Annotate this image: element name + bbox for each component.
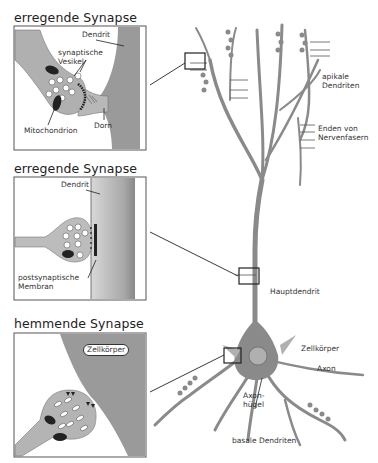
label-vesikel: synaptische Vesikel bbox=[58, 48, 103, 66]
label-mitochondrion: Mitochondrion bbox=[24, 126, 78, 135]
label-zellkoerper: Zellkörper bbox=[301, 344, 339, 353]
label-axon: Axon bbox=[317, 364, 336, 373]
label-dendrit-2: Dendrit bbox=[61, 180, 89, 189]
label-axonhuegel: Axon- hügel bbox=[243, 391, 264, 409]
panel-2-title: erregende Synapse bbox=[14, 161, 137, 176]
label-dendrit-1: Dendrit bbox=[82, 30, 110, 39]
panel-1-title: erregende Synapse bbox=[14, 10, 137, 25]
cell-body bbox=[222, 320, 296, 380]
label-postsynaptische-membran: postsynaptische Membran bbox=[18, 273, 79, 291]
neuron-diagram bbox=[0, 0, 378, 463]
label-zellkoerper-pill: Zellkörper bbox=[83, 344, 129, 356]
panel-3-title: hemmende Synapse bbox=[14, 316, 144, 331]
connector-lines bbox=[150, 63, 238, 392]
label-basale-dendriten: basale Dendriten bbox=[232, 436, 296, 445]
label-enden-von-nervenfasern: Enden von Nervenfasern bbox=[318, 124, 369, 142]
label-hauptdendrit: Hauptdendrit bbox=[270, 287, 320, 296]
label-apikale-dendriten: apikale Dendriten bbox=[322, 72, 359, 90]
label-dorn: Dorn bbox=[94, 121, 112, 130]
